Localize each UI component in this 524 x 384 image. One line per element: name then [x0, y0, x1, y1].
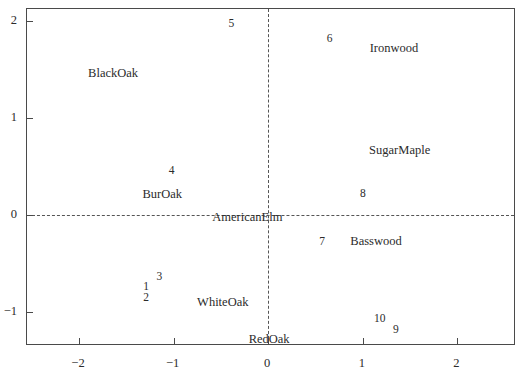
observation-point-label: 6: [327, 32, 333, 44]
x-tick: [363, 338, 364, 344]
y-tick: [27, 118, 33, 119]
variable-point-label: SugarMaple: [369, 143, 430, 156]
observation-point-label: 9: [393, 323, 399, 335]
variable-point-label: AmericanElm: [212, 210, 282, 223]
y-tick-label: 2: [0, 13, 17, 26]
x-tick-label: 2: [453, 357, 459, 370]
variable-point-label: RedOak: [249, 333, 290, 346]
y-tick-label: −1: [0, 305, 17, 318]
variable-point-label: Ironwood: [370, 41, 419, 54]
x-tick: [174, 338, 175, 344]
x-tick: [457, 338, 458, 344]
observation-point-label: 10: [374, 312, 386, 324]
observation-point-label: 2: [143, 291, 149, 303]
zero-line-vertical: [268, 9, 269, 344]
scatter-plot-canvas: 12345678910BlackOakBurOakAmericanElmWhit…: [0, 0, 524, 384]
x-tick: [79, 338, 80, 344]
y-tick: [27, 21, 33, 22]
observation-point-label: 3: [157, 270, 163, 282]
y-tick-label: 0: [0, 207, 17, 220]
y-tick: [27, 215, 33, 216]
x-tick-label: 1: [359, 357, 365, 370]
x-tick-label: 0: [264, 357, 270, 370]
observation-point-label: 7: [319, 235, 325, 247]
plot-frame: 12345678910BlackOakBurOakAmericanElmWhit…: [26, 8, 515, 345]
observation-point-label: 5: [228, 17, 234, 29]
variable-point-label: BlackOak: [88, 67, 138, 80]
variable-point-label: BurOak: [142, 188, 182, 201]
x-tick-label: −1: [166, 357, 179, 370]
x-tick-label: −2: [71, 357, 84, 370]
observation-point-label: 4: [169, 164, 175, 176]
y-tick: [27, 312, 33, 313]
variable-point-label: Basswood: [350, 235, 401, 248]
variable-point-label: WhiteOak: [197, 296, 248, 309]
observation-point-label: 1: [143, 280, 149, 292]
y-tick-label: 1: [0, 110, 17, 123]
observation-point-label: 8: [360, 187, 366, 199]
